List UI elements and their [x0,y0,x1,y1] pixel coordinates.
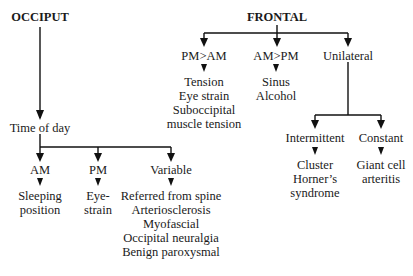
cause-item: Sleeping [18,189,62,203]
cause-item: muscle tension [167,117,242,131]
occiput-variable-causes: Referred from spine Arteriosclerosis Myo… [121,189,222,259]
cause-item: Alcohol [256,89,296,103]
cause-item: Eye- [84,189,112,203]
cause-item: syndrome [290,186,339,200]
frontal-am-gt-pm-causes: Sinus Alcohol [256,75,296,103]
frontal-title: FRONTAL [247,10,307,24]
cause-item: Occipital neuralgia [121,231,222,245]
cause-item: Benign paroxysmal [121,245,222,259]
cause-item: Giant cell [357,158,406,172]
frontal-intermittent-node: Intermittent [285,131,344,145]
cause-item: Cluster [290,158,339,172]
cause-item: strain [84,203,112,217]
occiput-variable-node: Variable [150,163,192,177]
frontal-intermittent-causes: Cluster Horner’s syndrome [290,158,339,200]
time-of-day-node: Time of day [10,121,71,135]
cause-item: Myofascial [121,217,222,231]
frontal-constant-node: Constant [359,131,403,145]
frontal-pm-gt-am-causes: Tension Eye strain Suboccipital muscle t… [167,75,242,131]
cause-item: Arteriosclerosis [121,203,222,217]
occiput-pm-node: PM [89,163,107,177]
cause-item: Eye strain [167,89,242,103]
frontal-am-gt-pm-node: AM>PM [253,49,298,63]
frontal-unilateral-node: Unilateral [323,49,373,63]
frontal-constant-causes: Giant cell arteritis [357,158,406,186]
occiput-title: OCCIPUT [11,10,69,24]
occiput-am-causes: Sleeping position [18,189,62,217]
cause-item: Referred from spine [121,189,222,203]
occiput-am-node: AM [30,163,50,177]
cause-item: arteritis [357,172,406,186]
cause-item: Sinus [256,75,296,89]
frontal-pm-gt-am-node: PM>AM [181,49,226,63]
cause-item: Tension [167,75,242,89]
cause-item: Suboccipital [167,103,242,117]
occiput-pm-causes: Eye- strain [84,189,112,217]
cause-item: position [18,203,62,217]
cause-item: Horner’s [290,172,339,186]
